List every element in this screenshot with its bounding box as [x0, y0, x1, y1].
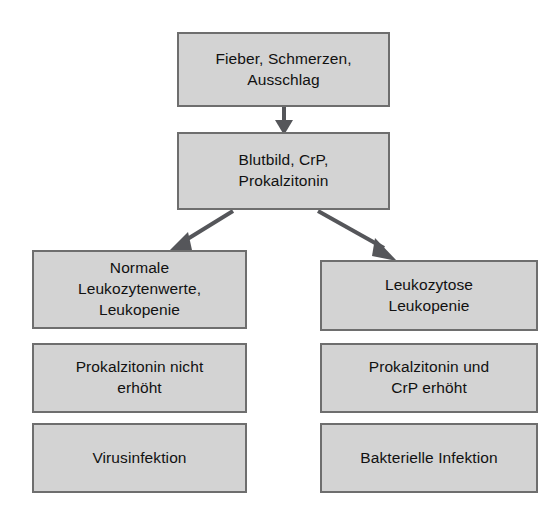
node-right-branch-marker: Prokalzitonin und CrP erhöht	[320, 343, 538, 413]
node-right-branch-finding: Leukozytose Leukopenie	[320, 260, 538, 331]
arrow-labtests-to-right-branch	[318, 211, 397, 261]
arrow-labtests-to-left-branch	[167, 211, 233, 253]
node-symptoms: Fieber, Schmerzen, Ausschlag	[177, 32, 390, 107]
flowchart-diagram: Fieber, Schmerzen, Ausschlag Blutbild, C…	[0, 0, 556, 509]
node-left-branch-marker: Prokalzitonin nicht erhöht	[32, 343, 247, 413]
arrow-symptoms-to-labtests	[275, 107, 293, 135]
node-left-branch-finding: Normale Leukozytenwerte, Leukopenie	[32, 250, 247, 329]
node-lab-tests: Blutbild, CrP, Prokalzitonin	[177, 132, 390, 210]
node-left-branch-diagnosis: Virusinfektion	[32, 423, 247, 493]
node-right-branch-diagnosis: Bakterielle Infektion	[320, 423, 538, 493]
